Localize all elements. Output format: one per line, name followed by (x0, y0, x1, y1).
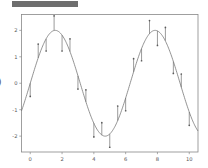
errorbar-cap-marker (149, 20, 151, 22)
errorbar-cap-marker (69, 38, 71, 40)
data-series-group (22, 15, 199, 148)
errorbar-cap-marker (61, 50, 63, 52)
tick-labels-group: 0246810-2-1012 (12, 27, 192, 162)
errorbar-cap-marker (93, 136, 95, 138)
x-tick-label: 4 (92, 156, 96, 162)
y-tick-label: -2 (12, 133, 17, 139)
y-tick-label: 1 (14, 54, 17, 60)
screen: ) 0246810-2-1012 (0, 0, 208, 168)
errorbar-cap-marker (125, 110, 127, 112)
x-tick-label: 0 (29, 156, 32, 162)
errorbar-cap-marker (157, 45, 159, 47)
errorbar-cap-marker (188, 124, 190, 126)
x-tick-label: 10 (186, 156, 193, 162)
errorbar-cap-marker (141, 60, 143, 62)
errorbar-cap-marker (109, 146, 111, 148)
x-tick-label: 8 (156, 156, 159, 162)
errorbar-cap-marker (165, 27, 167, 29)
y-tick-label: 0 (14, 80, 17, 86)
errorbar-cap-marker (29, 96, 31, 98)
x-tick-label: 2 (60, 156, 63, 162)
errorbar-cap-marker (173, 73, 175, 75)
axes-group (19, 15, 198, 155)
errorbar-cap-marker (101, 122, 103, 124)
errorbar-cap-marker (77, 88, 79, 90)
errorbar-cap-marker (85, 89, 87, 91)
plot-figure: ) 0246810-2-1012 (0, 0, 208, 168)
errorbar-cap-marker (180, 73, 182, 75)
y-tick-label: 2 (14, 27, 17, 33)
data-line (22, 30, 199, 136)
x-tick-label: 6 (124, 156, 127, 162)
errorbar-cap-marker (133, 58, 135, 60)
errorbar-cap-marker (45, 50, 47, 52)
errorbar-cap-marker (53, 15, 55, 17)
errorbar-cap-marker (37, 43, 39, 45)
chart-canvas: 0246810-2-1012 (0, 0, 208, 168)
y-tick-label: -1 (12, 107, 17, 113)
errorbar-cap-marker (117, 105, 119, 107)
